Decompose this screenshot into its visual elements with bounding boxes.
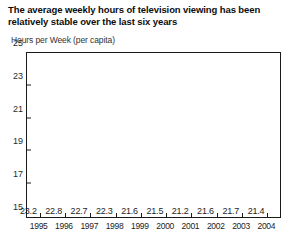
bar-value-label: 21.2 <box>172 206 189 216</box>
bar-value-label: 21.6 <box>121 206 138 216</box>
x-axis-label: 1999 <box>127 221 152 231</box>
x-axis-label: 2000 <box>153 221 178 231</box>
x-axis-label: 1996 <box>51 221 76 231</box>
x-axis-tickmark <box>141 213 142 217</box>
y-axis-tick-label: 17 <box>13 169 23 179</box>
plot-area: 252321191715 23.222.822.722.321.621.521.… <box>26 52 281 218</box>
bar-value-label: 21.6 <box>197 206 214 216</box>
x-axis-labels: 1995199619971998199920002001200220032004 <box>26 221 281 235</box>
chart-title: The average weekly hours of television v… <box>8 4 283 27</box>
x-axis-tickmark <box>267 213 268 217</box>
x-axis-tickmark <box>65 213 66 217</box>
x-axis-label: 1995 <box>26 221 51 231</box>
x-axis-label: 2003 <box>228 221 253 231</box>
bar-value-label: 21.5 <box>147 206 164 216</box>
bar-value-label: 23.2 <box>20 206 37 216</box>
y-axis-tick-label: 25 <box>13 38 23 48</box>
y-axis-tick-label: 21 <box>13 104 23 114</box>
bar-value-label: 22.3 <box>96 206 113 216</box>
x-axis-tickmark <box>40 213 41 217</box>
y-axis-tick-label: 19 <box>13 136 23 146</box>
bar-series: 23.222.822.722.321.621.521.221.621.721.4 <box>27 53 280 217</box>
x-axis-tickmark <box>242 213 243 217</box>
bar-value-label: 21.7 <box>222 206 239 216</box>
x-axis-label: 1998 <box>102 221 127 231</box>
x-axis-tickmark <box>116 213 117 217</box>
bar-value-label: 22.8 <box>45 206 62 216</box>
y-axis-tick-label: 23 <box>13 71 23 81</box>
x-axis-tickmark <box>90 213 91 217</box>
x-axis-label: 1997 <box>77 221 102 231</box>
bar-value-label: 22.7 <box>71 206 88 216</box>
x-axis-label: 2004 <box>254 221 279 231</box>
bar-value-label: 21.4 <box>248 206 265 216</box>
x-axis-label: 2001 <box>178 221 203 231</box>
x-axis-tickmark <box>166 213 167 217</box>
x-axis-tickmark <box>217 213 218 217</box>
y-axis-caption: Hours per Week (per capita) <box>11 35 115 45</box>
x-axis-label: 2002 <box>203 221 228 231</box>
x-axis-tickmark <box>191 213 192 217</box>
